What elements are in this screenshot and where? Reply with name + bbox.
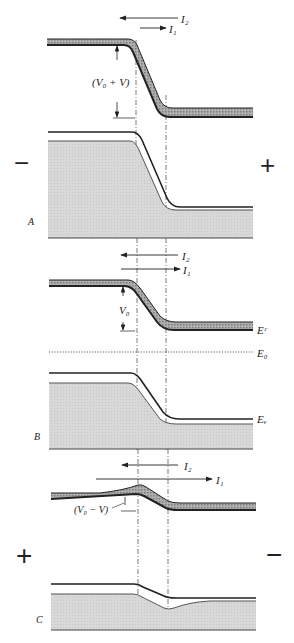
current-i2-label: I₂ (181, 250, 190, 262)
barrier-height-label: (V₀ − V) (74, 504, 109, 516)
conduction-band-label: Eᶜ (256, 324, 268, 336)
valence-band-fill (51, 594, 256, 630)
valence-band-fill (49, 383, 253, 449)
current-i2-label: I₂ (180, 13, 189, 25)
fermi-level-label: E₀ (256, 347, 268, 359)
valence-band-label: Eᵥ (256, 413, 267, 425)
barrier-height-label: (V₀ + V) (92, 76, 130, 89)
barrier-height-label: V₀ (119, 304, 130, 316)
current-i1-label: I₁ (182, 264, 191, 276)
current-i1-label: I₁ (215, 474, 224, 486)
conduction-band (47, 39, 253, 117)
polarity-left: + (16, 540, 32, 571)
panel-a: I₂ I₁ (V₀ + V) − + A (14, 13, 275, 238)
panel-c: I₂ I₁ (V₀ − V) + − C (16, 449, 282, 630)
panel-label-a: A (27, 216, 35, 227)
panel-b: I₂ I₁ Eᶜ V₀ E₀ Eᵥ B (34, 238, 268, 450)
valence-band-fill (48, 141, 253, 238)
polarity-right: − (266, 539, 282, 570)
panel-label-c: C (36, 614, 43, 625)
current-i2-label: I₂ (183, 460, 192, 472)
panel-label-b: B (34, 431, 40, 442)
polarity-right: + (260, 150, 275, 180)
current-i1-label: I₁ (168, 23, 177, 35)
pn-junction-band-diagram: I₂ I₁ (V₀ + V) − + A I₂ I₁ Eᶜ (0, 0, 294, 643)
polarity-left: − (14, 148, 29, 178)
